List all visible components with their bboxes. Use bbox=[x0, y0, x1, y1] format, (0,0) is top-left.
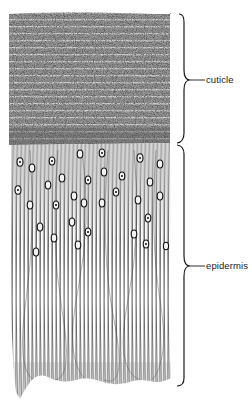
cuticle-label: cuticle bbox=[206, 74, 234, 85]
cuticle-layer bbox=[8, 11, 172, 147]
cuticle-epidermis-illustration bbox=[0, 0, 252, 412]
epidermis-label: epidermis bbox=[206, 260, 248, 271]
epidermis-brace bbox=[177, 145, 190, 386]
cuticle-brace bbox=[177, 14, 190, 143]
